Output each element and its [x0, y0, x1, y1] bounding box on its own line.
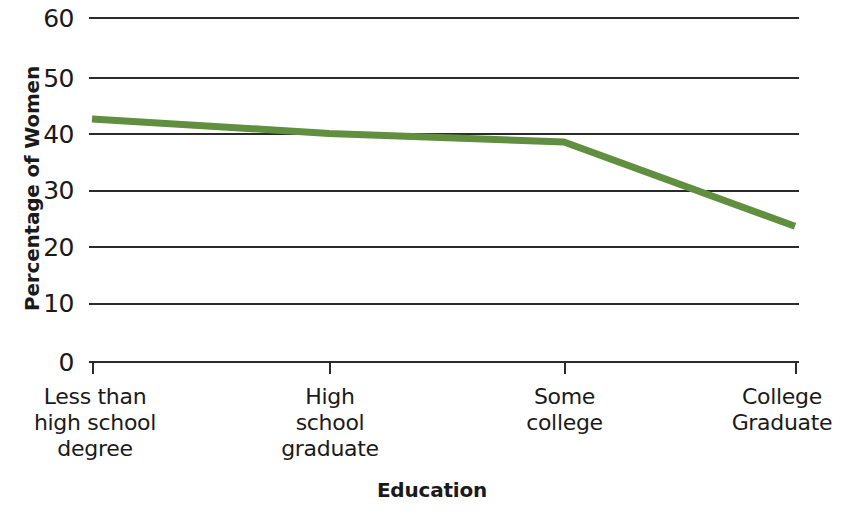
- x-tick-label-college-graduate: College Graduate: [700, 384, 864, 436]
- x-axis-title: Education: [0, 478, 864, 502]
- y-tick-label-40: 40: [16, 122, 74, 147]
- gridline-60: [89, 17, 799, 19]
- gridline-30: [89, 190, 799, 192]
- series-line-percentage-of-women: [92, 119, 795, 226]
- gridline-20: [89, 246, 799, 248]
- x-tick-mark-2: [329, 361, 331, 374]
- y-tick-label-50: 50: [16, 66, 74, 91]
- y-tick-label-60: 60: [16, 6, 74, 31]
- y-tick-label-20: 20: [16, 235, 74, 260]
- x-tick-label-some-college: Some college: [477, 384, 652, 436]
- gridline-40: [89, 133, 799, 135]
- x-tick-mark-4: [795, 361, 797, 374]
- y-tick-label-10: 10: [16, 291, 74, 316]
- x-axis-line: [89, 361, 799, 363]
- gridline-10: [89, 303, 799, 305]
- x-tick-mark-3: [564, 361, 566, 374]
- gridline-50: [89, 77, 799, 79]
- y-tick-label-30: 30: [16, 178, 74, 203]
- x-tick-label-high-school-graduate: High school graduate: [240, 384, 420, 462]
- x-tick-label-less-than-high-school-degree: Less than high school degree: [0, 384, 190, 462]
- x-tick-mark-1: [92, 361, 94, 374]
- y-tick-label-0: 0: [16, 350, 74, 375]
- line-chart: Percentage of Women 60 50 40 30 20 10 0 …: [0, 0, 864, 515]
